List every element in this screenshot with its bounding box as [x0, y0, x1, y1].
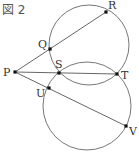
label-Q: Q [38, 38, 47, 51]
label-V: V [128, 125, 138, 138]
point-T [115, 72, 118, 75]
figure-title: 図 2 [2, 3, 25, 17]
point-P [13, 70, 16, 73]
point-S [57, 71, 60, 74]
line-PT [15, 72, 117, 74]
circles-group [43, 5, 131, 150]
geometry-diagram: 図 2 PQRSTUV [0, 0, 139, 154]
label-T: T [121, 69, 129, 82]
labels-group: PQRSTUV [3, 0, 138, 138]
point-Q [48, 47, 51, 50]
segments-group [15, 12, 126, 126]
label-R: R [108, 0, 117, 12]
point-U [47, 86, 50, 89]
label-P: P [3, 66, 11, 79]
point-V [124, 124, 127, 127]
label-U: U [36, 87, 45, 100]
label-S: S [55, 58, 63, 71]
